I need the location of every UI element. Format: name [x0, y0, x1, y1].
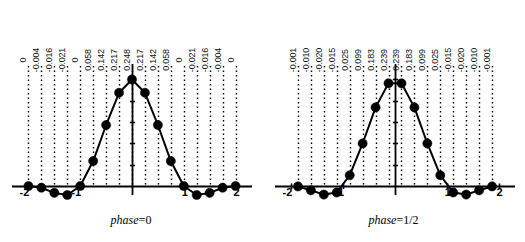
plot-area-right [262, 0, 525, 242]
data-point [50, 188, 59, 197]
caption-left-value: 0 [145, 213, 151, 227]
x-tick-label: -1 [334, 187, 344, 198]
chart-panel-phase-half: -0.001-0.010-0.020-0.0150.0250.0990.1830… [262, 0, 525, 242]
data-point [140, 88, 149, 97]
x-tick-label: -2 [282, 187, 292, 198]
caption-right: phase=1/2 [262, 213, 525, 228]
data-point [218, 183, 227, 192]
data-point [102, 120, 111, 129]
data-point [306, 186, 315, 195]
data-point [345, 171, 354, 180]
caption-left: phase=0 [0, 213, 262, 228]
x-tick-label: 1 [445, 187, 451, 198]
x-tick-label: 1 [182, 187, 188, 198]
x-tick-label: 2 [497, 187, 503, 198]
data-point [205, 188, 214, 197]
caption-left-label: phase [111, 213, 139, 227]
data-point [423, 139, 432, 148]
data-point [153, 120, 162, 129]
data-point [127, 75, 136, 84]
x-tick-label: 2 [234, 187, 240, 198]
plot-area-left [0, 0, 262, 242]
data-point [397, 79, 406, 88]
x-tick-label: -1 [71, 187, 81, 198]
data-point [192, 190, 201, 199]
data-point [384, 79, 393, 88]
data-point [475, 186, 484, 195]
data-point [410, 103, 419, 112]
chart-panel-phase-0: 0-0.004-0.016-0.02100.0580.1420.2170.248… [0, 0, 262, 242]
data-point [319, 190, 328, 199]
data-point [462, 190, 471, 199]
data-point [371, 103, 380, 112]
data-point [293, 182, 302, 191]
caption-right-label: phase [368, 213, 396, 227]
data-point [89, 156, 98, 165]
caption-right-value: 1/2 [403, 213, 418, 227]
x-tick-label: -2 [19, 187, 29, 198]
data-point [487, 182, 496, 191]
figure-container: 0-0.004-0.016-0.02100.0580.1420.2170.248… [0, 0, 525, 242]
data-point [166, 156, 175, 165]
data-point [114, 88, 123, 97]
data-point [37, 183, 46, 192]
data-point [436, 171, 445, 180]
data-point [358, 139, 367, 148]
